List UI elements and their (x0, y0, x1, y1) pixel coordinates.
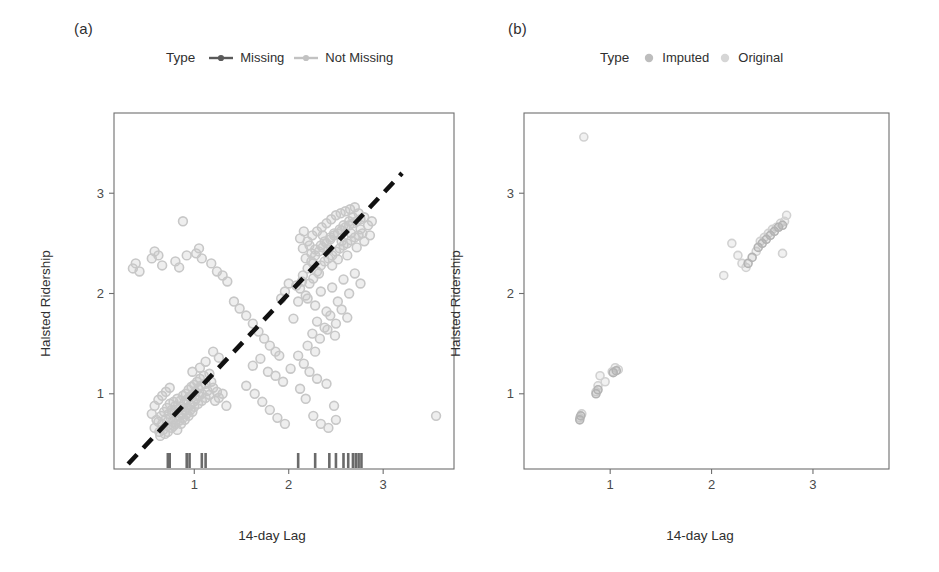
legend-entry-missing[interactable]: Missing (208, 50, 284, 65)
data-point-fill (779, 221, 787, 229)
y-axis-title-b: Halsted Ridership (448, 204, 463, 404)
data-point-fill (296, 384, 305, 393)
data-point-fill (728, 239, 736, 247)
data-point-fill (748, 253, 756, 261)
data-point-fill (214, 353, 223, 362)
data-point-fill (179, 217, 188, 226)
y-tick-label: 3 (97, 186, 104, 201)
data-point-fill (594, 386, 602, 394)
data-point-fill (318, 231, 327, 240)
data-point-fill (324, 423, 333, 432)
data-point-fill (330, 401, 339, 410)
data-point-fill (432, 411, 441, 420)
data-point-fill (601, 378, 609, 386)
legend-key-not-missing-icon (293, 52, 319, 64)
data-point-fill (577, 412, 585, 420)
data-point-fill (299, 359, 308, 368)
data-point-fill (294, 297, 303, 306)
data-point-fill (367, 217, 376, 226)
data-point-fill (182, 251, 191, 260)
legend-entry-not-missing[interactable]: Not Missing (293, 50, 393, 65)
y-tick-label: 1 (97, 386, 104, 401)
data-point-fill (343, 251, 352, 260)
data-point-fill (222, 401, 231, 410)
data-point-fill (273, 413, 282, 422)
legend-panel-a: Type Missing Not Missing (166, 50, 393, 65)
legend-title-a: Type (166, 50, 195, 65)
data-point-fill (207, 259, 216, 268)
data-point-fill (322, 379, 331, 388)
data-point-fill (284, 279, 293, 288)
data-point-fill (328, 283, 337, 292)
x-tick-label: 2 (708, 477, 715, 492)
data-point-fill (309, 411, 318, 420)
data-point-fill (332, 415, 341, 424)
scatter-plot-panel-a: 123123 (92, 107, 464, 503)
panel-tag-a: (a) (74, 20, 93, 37)
x-tick-label: 1 (191, 477, 198, 492)
x-tick-label: 3 (380, 477, 387, 492)
data-point-fill (158, 261, 167, 270)
y-tick-label: 1 (507, 386, 514, 401)
x-axis-title-a: 14-day Lag (182, 528, 362, 543)
data-point-fill (323, 325, 332, 334)
data-point-fill (333, 255, 342, 264)
data-point-fill (339, 275, 348, 284)
data-point-fill (218, 389, 227, 398)
data-point-fill (188, 407, 197, 416)
data-point-fill (242, 311, 251, 320)
data-point-fill (165, 383, 174, 392)
data-point-fill (242, 381, 251, 390)
legend-key-missing-icon (208, 52, 234, 64)
data-point-fill (271, 371, 280, 380)
legend-key-original-icon (718, 51, 732, 65)
data-point-fill (275, 351, 284, 360)
data-point-fill (305, 367, 314, 376)
data-point-fill (315, 269, 324, 278)
data-point-fill (250, 389, 259, 398)
x-axis-title-b: 14-day Lag (610, 528, 790, 543)
data-point-fill (154, 251, 163, 260)
data-point-fill (356, 279, 365, 288)
x-tick-label: 2 (285, 477, 292, 492)
data-point-fill (135, 267, 144, 276)
data-point-fill (197, 254, 206, 263)
data-point-fill (366, 231, 375, 240)
data-point-fill (783, 211, 791, 219)
legend-panel-b: Type Imputed Original (600, 50, 783, 65)
data-point-fill (281, 419, 290, 428)
legend-entry-imputed[interactable]: Imputed (642, 50, 709, 65)
data-point-fill (195, 244, 204, 253)
data-point-fill (345, 289, 354, 298)
data-point-fill (279, 377, 288, 386)
data-point-fill (248, 361, 257, 370)
data-point-fill (352, 243, 361, 252)
data-point-fill (303, 341, 312, 350)
data-point-fill (188, 367, 197, 376)
data-point-fill (326, 311, 335, 320)
y-tick-label: 2 (507, 286, 514, 301)
data-point-fill (294, 351, 303, 360)
y-axis-title-a: Halsted Ridership (38, 204, 53, 404)
legend-key-imputed-icon (642, 51, 656, 65)
y-tick-label: 2 (97, 286, 104, 301)
data-point-fill (289, 314, 298, 323)
legend-entry-original[interactable]: Original (718, 50, 783, 65)
data-point-fill (337, 305, 346, 314)
data-point-fill (286, 364, 295, 373)
scatter-plot-panel-b: 123123 (502, 107, 904, 503)
data-point-fill (316, 287, 325, 296)
data-point-fill (311, 347, 320, 356)
legend-label-missing: Missing (240, 50, 284, 65)
data-point-fill (235, 304, 244, 313)
data-point-fill (311, 301, 320, 310)
legend-label-imputed: Imputed (662, 50, 709, 65)
data-point-fill (720, 271, 728, 279)
legend-label-original: Original (738, 50, 783, 65)
data-point-fill (612, 367, 620, 375)
data-point-fill (315, 334, 324, 343)
data-point-fill (332, 319, 341, 328)
data-point-fill (303, 294, 312, 303)
data-point-fill (299, 227, 308, 236)
data-point-fill (301, 394, 310, 403)
